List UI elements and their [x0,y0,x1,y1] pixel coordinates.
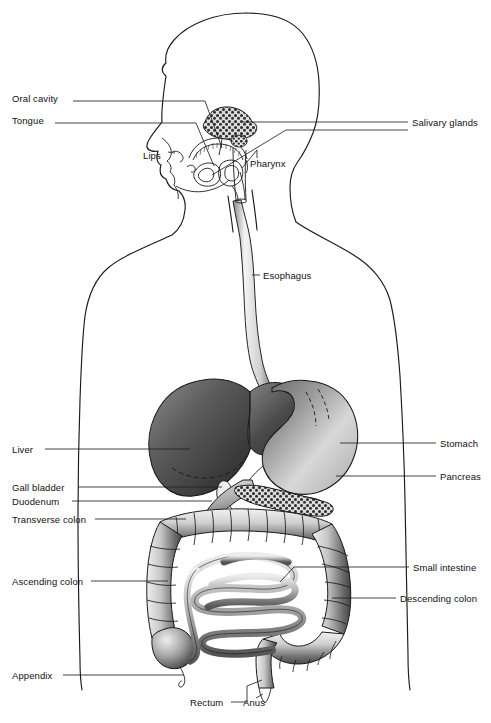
label-anus: Anus [243,697,265,708]
large-intestine-shape [147,509,351,703]
label-pancreas: Pancreas [440,471,481,482]
label-small-intestine: Small intestine [413,562,476,573]
leader-lips [168,152,175,153]
label-lips: Lips [143,150,161,161]
label-transverse-colon: Transverse colon [12,514,86,525]
label-salivary-glands: Salivary glands [412,117,478,128]
label-appendix: Appendix [12,670,52,681]
label-tongue: Tongue [12,115,44,126]
label-liver: Liver [12,444,33,455]
label-esophagus: Esophagus [263,270,311,281]
digestive-system-diagram: Oral cavity Tongue Lips Pharynx Salivary… [0,0,491,723]
label-rectum: Rectum [190,697,223,708]
label-gall-bladder: Gall bladder [12,482,64,493]
label-descending-colon: Descending colon [400,593,477,604]
label-ascending-colon: Ascending colon [12,576,83,587]
leader-oral-cavity [73,101,222,148]
label-pharynx: Pharynx [250,158,286,169]
label-duodenum: Duodenum [12,496,59,507]
anatomy-illustration [0,0,491,723]
label-stomach: Stomach [440,438,478,449]
leader-tongue [55,123,214,166]
label-oral-cavity: Oral cavity [12,93,58,104]
head-internals-group [162,107,257,200]
